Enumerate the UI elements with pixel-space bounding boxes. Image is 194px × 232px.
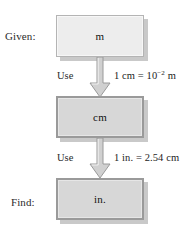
- conversion-equation-1-left: 1 cm = 10: [114, 70, 157, 81]
- conversion-use-label-2: Use: [57, 150, 73, 166]
- unit-box-given-label: m: [96, 30, 105, 42]
- unit-box-given: m: [56, 15, 144, 57]
- conversion-row-2: Use 1 in. = 2.54 cm: [0, 150, 194, 166]
- unit-box-find-label: in.: [94, 193, 106, 205]
- conversion-equation-2-left: 1 in. = 2.54 cm: [114, 152, 179, 163]
- conversion-row-1: Use 1 cm = 10−2 m: [0, 68, 194, 84]
- conversion-equation-1-right: m: [165, 70, 176, 81]
- conversion-equation-1: 1 cm = 10−2 m: [114, 68, 176, 84]
- unit-box-intermediate: cm: [56, 96, 144, 138]
- conversion-equation-1-exponent: −2: [157, 69, 165, 77]
- unit-box-intermediate-label: cm: [93, 111, 107, 123]
- unit-box-find: in.: [56, 178, 144, 220]
- given-label: Given:: [5, 31, 36, 42]
- unit-conversion-diagram: Given: m Use 1 cm = 10−2 m cm Use 1 in. …: [0, 0, 194, 232]
- conversion-equation-2: 1 in. = 2.54 cm: [114, 150, 179, 166]
- find-label: Find:: [11, 197, 35, 208]
- conversion-use-label-1: Use: [57, 68, 73, 84]
